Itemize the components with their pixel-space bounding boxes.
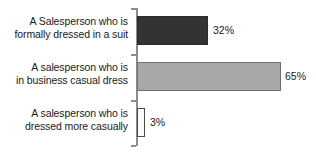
axis-tick-2 — [131, 100, 136, 102]
axis-tick-bottom — [131, 145, 136, 147]
horizontal-bar-chart: A Salesperson who is formally dressed in… — [0, 0, 316, 154]
bar-mid-business-casual[interactable] — [137, 62, 281, 91]
bar-light-casual[interactable] — [137, 108, 145, 137]
bar-value-label: 65% — [285, 70, 306, 83]
axis-tick-top — [131, 8, 136, 10]
bar-category-label: A salesperson who is dressed more casual… — [0, 107, 128, 133]
bar-category-label: A Salesperson who is formally dressed in… — [0, 15, 128, 41]
bar-category-label: A salesperson who is in business casual … — [0, 61, 128, 87]
bar-value-label: 32% — [213, 24, 234, 37]
axis-tick-1 — [131, 54, 136, 56]
bar-value-label: 3% — [150, 116, 165, 129]
bar-dark-suit[interactable] — [137, 16, 208, 45]
